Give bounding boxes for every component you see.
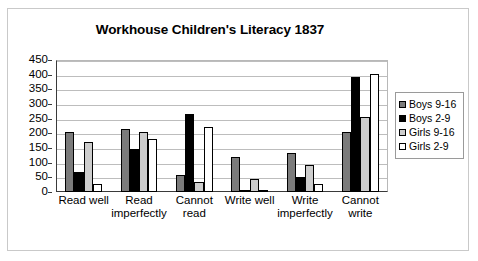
legend-label: Boys 2-9 [409, 113, 450, 124]
y-axis-tick [48, 60, 52, 61]
y-axis-labels: 050100150200250300350400450 [16, 60, 52, 192]
y-axis-tick [48, 177, 52, 178]
legend-swatch-icon [399, 101, 406, 108]
legend-swatch-icon [399, 143, 406, 150]
gridline [57, 178, 387, 179]
y-axis-tick-label: 300 [29, 98, 48, 110]
gridline [57, 90, 387, 91]
y-axis-tick-label: 150 [29, 142, 48, 154]
chart-legend: Boys 9-16Boys 2-9Girls 9-16Girls 2-9 [395, 92, 464, 159]
gridline [57, 76, 387, 77]
y-axis-tick-label: 350 [29, 84, 48, 96]
y-axis-tick-label: 50 [35, 172, 48, 184]
plot-area [56, 60, 388, 192]
gridline [57, 61, 387, 62]
y-axis-tick [48, 148, 52, 149]
legend-swatch-icon [399, 115, 406, 122]
legend-label: Boys 9-16 [409, 99, 456, 110]
gridline [57, 149, 387, 150]
legend-label: Girls 2-9 [409, 141, 449, 152]
legend-swatch-icon [399, 129, 406, 136]
y-axis-tick-label: 250 [29, 113, 48, 125]
y-axis-tick [48, 75, 52, 76]
gridline [57, 134, 387, 135]
y-axis-tick-label: 100 [29, 157, 48, 169]
chart-container: Workhouse Children's Literacy 1837 05010… [0, 0, 478, 261]
legend-item[interactable]: Girls 2-9 [399, 140, 460, 153]
y-axis-tick [48, 192, 52, 193]
legend-item[interactable]: Girls 9-16 [399, 126, 460, 139]
y-axis-tick-label: 200 [29, 128, 48, 140]
y-axis-tick [48, 133, 52, 134]
y-axis-tick [48, 104, 52, 105]
y-axis-tick-label: 450 [29, 54, 48, 66]
x-axis-labels: Read wellRead imperfectlyCannot readWrit… [56, 194, 388, 238]
chart-title: Workhouse Children's Literacy 1837 [30, 22, 390, 37]
y-axis-tick [48, 119, 52, 120]
y-axis-tick-label: 400 [29, 69, 48, 81]
x-axis-category-label: Cannot write [327, 194, 394, 220]
legend-label: Girls 9-16 [409, 127, 455, 138]
gridline [57, 120, 387, 121]
legend-item[interactable]: Boys 2-9 [399, 112, 460, 125]
gridline [57, 164, 387, 165]
y-axis-tick [48, 163, 52, 164]
y-axis-tick [48, 89, 52, 90]
legend-item[interactable]: Boys 9-16 [399, 98, 460, 111]
gridline [57, 105, 387, 106]
